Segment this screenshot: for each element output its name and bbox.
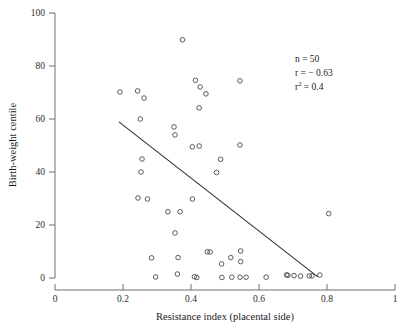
regression-line — [119, 122, 318, 277]
data-point — [219, 262, 224, 267]
data-point — [220, 275, 225, 280]
x-ticklabel-0: 0 — [53, 294, 58, 304]
data-point — [264, 275, 269, 280]
data-point — [318, 273, 323, 278]
y-ticklabel-60: 60 — [36, 114, 46, 124]
y-ticklabel-0: 0 — [40, 273, 45, 283]
data-point — [138, 117, 143, 122]
data-point — [135, 89, 140, 94]
annotation-n: n = 50 — [295, 54, 320, 64]
data-point — [175, 272, 180, 277]
scatter-plot-svg: 0 20 40 60 80 100 Birth-weight centile 0 — [0, 0, 418, 333]
data-point — [230, 275, 235, 280]
data-point — [238, 79, 243, 84]
y-axis: 0 20 40 60 80 100 Birth-weight centile — [7, 8, 55, 283]
y-ticklabel-100: 100 — [31, 8, 46, 18]
x-axis-title: Resistance index (placental side) — [156, 311, 294, 323]
y-ticklabel-20: 20 — [36, 220, 46, 230]
x-ticklabel-0-2: 0.2 — [117, 294, 129, 304]
data-point — [326, 211, 331, 216]
data-point — [136, 196, 141, 201]
data-point — [204, 92, 209, 97]
data-point — [153, 275, 158, 280]
x-ticklabel-0-8: 0.8 — [321, 294, 333, 304]
x-ticklabel-0-4: 0.4 — [185, 294, 197, 304]
data-point — [244, 275, 249, 280]
data-point — [176, 255, 181, 260]
data-point — [145, 197, 150, 202]
data-point — [140, 157, 145, 162]
y-axis-title: Birth-weight centile — [7, 103, 18, 188]
data-point — [218, 157, 223, 162]
data-point — [190, 197, 195, 202]
x-axis-ticks — [55, 284, 395, 290]
x-ticklabel-0-6: 0.6 — [253, 294, 265, 304]
data-point — [166, 209, 171, 214]
data-point — [228, 255, 233, 260]
data-point — [139, 170, 144, 175]
data-point — [149, 256, 154, 261]
data-point — [142, 96, 147, 101]
data-point — [197, 144, 202, 149]
data-point — [173, 231, 178, 236]
data-point — [118, 90, 123, 95]
statistics-annotation: n = 50 r = − 0.63 r2 = 0.4 — [295, 54, 333, 92]
data-point — [190, 145, 195, 150]
annotation-r2: r2 = 0.4 — [295, 80, 324, 92]
y-axis-tick-labels: 0 20 40 60 80 100 — [31, 8, 46, 283]
annotation-r2-value: = 0.4 — [301, 82, 323, 92]
data-point — [197, 106, 202, 111]
data-point — [173, 133, 178, 138]
annotation-r: r = − 0.63 — [295, 68, 333, 78]
data-point — [198, 85, 203, 90]
data-point — [180, 37, 185, 42]
data-point — [214, 170, 219, 175]
chart-figure: 0 20 40 60 80 100 Birth-weight centile 0 — [0, 0, 418, 333]
y-axis-ticks — [49, 13, 55, 278]
y-ticklabel-80: 80 — [36, 61, 46, 71]
x-ticklabel-1: 1 — [393, 294, 398, 304]
data-point — [238, 143, 243, 148]
data-point — [292, 273, 297, 278]
y-ticklabel-40: 40 — [36, 167, 46, 177]
data-point — [238, 259, 243, 264]
x-axis: 0 0.2 0.4 0.6 0.8 1 Resistance index (pl… — [53, 284, 398, 323]
data-point — [178, 209, 183, 214]
data-point — [238, 249, 243, 254]
data-point — [238, 275, 243, 280]
data-point — [193, 78, 198, 83]
x-axis-tick-labels: 0 0.2 0.4 0.6 0.8 1 — [53, 294, 398, 304]
data-point — [298, 274, 303, 279]
data-point — [172, 125, 177, 130]
